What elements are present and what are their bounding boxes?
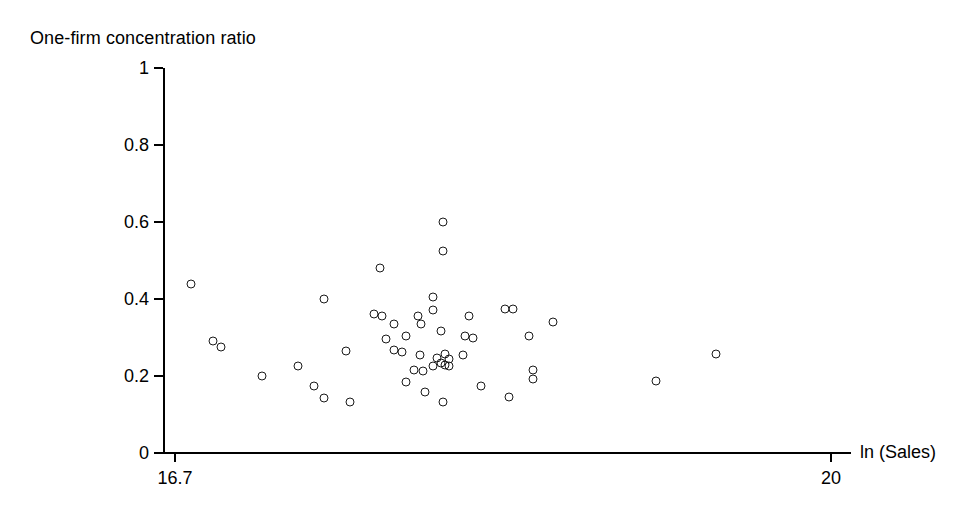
y-tick-label: 0.2 <box>101 366 149 387</box>
scatter-point <box>429 305 438 314</box>
scatter-point <box>437 327 446 336</box>
scatter-point <box>320 394 329 403</box>
scatter-point <box>524 331 533 340</box>
scatter-point <box>465 312 474 321</box>
scatter-point <box>375 264 384 273</box>
x-axis-line <box>163 452 851 454</box>
scatter-point <box>409 366 418 375</box>
scatter-point <box>652 376 661 385</box>
scatter-point <box>508 304 517 313</box>
scatter-point <box>294 362 303 371</box>
scatter-point <box>445 362 454 371</box>
scatter-point <box>419 367 428 376</box>
scatter-point <box>341 346 350 355</box>
scatter-point <box>477 381 486 390</box>
scatter-point <box>381 335 390 344</box>
scatter-point <box>345 398 354 407</box>
scatter-point <box>439 246 448 255</box>
scatter-point <box>377 312 386 321</box>
scatter-point <box>389 320 398 329</box>
scatter-point <box>417 320 426 329</box>
scatter-point <box>459 350 468 359</box>
scatter-point <box>711 350 720 359</box>
scatter-point <box>528 366 537 375</box>
scatter-point <box>310 381 319 390</box>
scatter-point <box>397 348 406 357</box>
scatter-point <box>528 375 537 384</box>
scatter-point <box>415 350 424 359</box>
x-tick-label: 16.7 <box>157 468 192 489</box>
scatter-chart: One-firm concentration ratio 00.20.40.60… <box>0 0 979 508</box>
scatter-point <box>429 293 438 302</box>
scatter-point <box>548 318 557 327</box>
y-tick-label: 0.4 <box>101 289 149 310</box>
y-axis-label: One-firm concentration ratio <box>30 28 256 49</box>
x-axis-label: ln (Sales) <box>860 442 936 463</box>
x-tick-mark <box>174 452 176 462</box>
scatter-point <box>258 372 267 381</box>
scatter-point <box>216 343 225 352</box>
scatter-point <box>469 333 478 342</box>
y-tick-mark <box>154 221 163 223</box>
x-tick-mark <box>830 452 832 462</box>
scatter-point <box>320 295 329 304</box>
x-tick-label: 20 <box>821 468 841 489</box>
scatter-point <box>439 398 448 407</box>
y-tick-mark <box>154 298 163 300</box>
scatter-point <box>504 393 513 402</box>
y-tick-mark <box>154 375 163 377</box>
y-axis-line <box>163 68 165 454</box>
y-tick-mark <box>154 452 163 454</box>
scatter-point <box>401 377 410 386</box>
scatter-point <box>186 279 195 288</box>
scatter-point <box>421 388 430 397</box>
y-tick-label: 0.8 <box>101 135 149 156</box>
y-tick-mark <box>154 67 163 69</box>
scatter-point <box>439 218 448 227</box>
y-tick-label: 0 <box>101 443 149 464</box>
y-tick-mark <box>154 144 163 146</box>
y-tick-label: 1 <box>101 58 149 79</box>
y-tick-label: 0.6 <box>101 212 149 233</box>
scatter-point <box>401 331 410 340</box>
